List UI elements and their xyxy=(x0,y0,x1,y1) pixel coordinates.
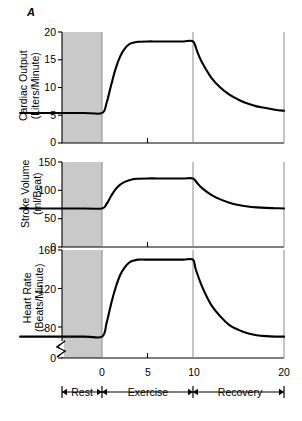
data-curve-cardiac-output xyxy=(20,41,284,114)
phase-bracket-recovery-arrow-left xyxy=(193,389,198,395)
phase-bracket-recovery-arrow-right xyxy=(279,389,284,395)
phase-bracket-exercise-arrow-right xyxy=(188,389,193,395)
phase-bracket-rest-arrow-left xyxy=(62,389,67,395)
plot-drawing-layer xyxy=(0,0,302,421)
rest-shaded-region xyxy=(62,250,102,358)
phase-bracket-exercise-arrow-left xyxy=(102,389,107,395)
data-curve-stroke-volume xyxy=(20,178,284,209)
rest-shaded-region xyxy=(62,162,102,247)
figure-cardiovascular-exercise-response: A Cardiac Output (Liters/Minute) 20 15 1… xyxy=(0,0,302,421)
phase-bracket-rest-arrow-right xyxy=(97,389,102,395)
rest-shaded-region xyxy=(62,32,102,143)
data-curve-heart-rate xyxy=(20,259,284,338)
